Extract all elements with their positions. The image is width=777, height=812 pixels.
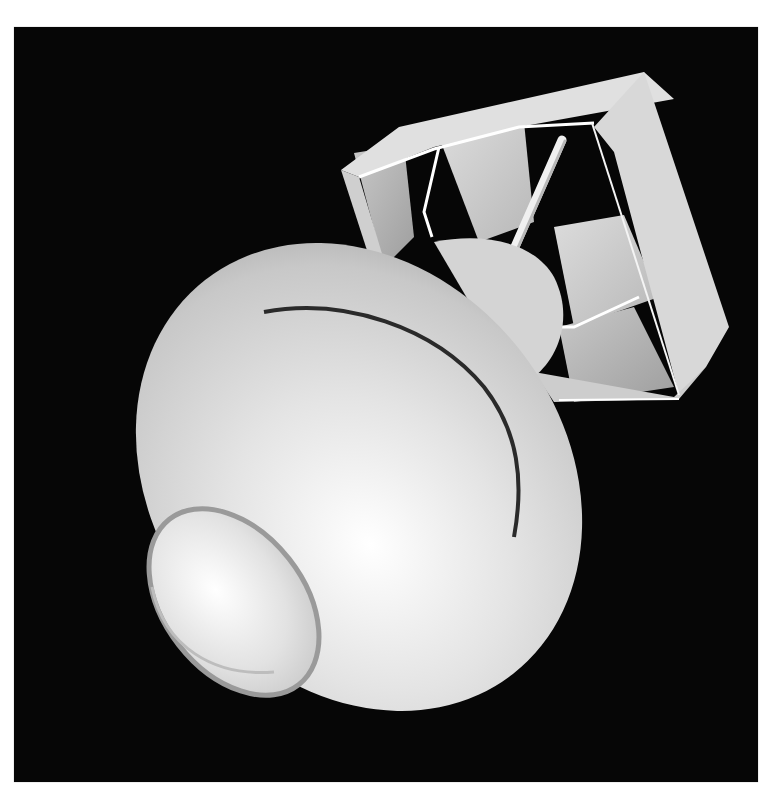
render-canvas: [14, 27, 758, 782]
bomb-render: [14, 27, 758, 782]
